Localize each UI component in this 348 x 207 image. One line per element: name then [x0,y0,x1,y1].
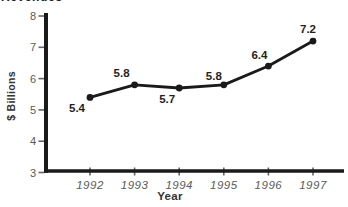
y-tick-label: 4 [30,135,36,147]
data-point [176,85,183,92]
data-point-label: 5.7 [159,93,175,105]
x-tick-label: 1992 [76,179,104,191]
data-point [310,38,317,45]
x-tick-label: 1995 [210,179,238,191]
data-point [220,81,227,88]
y-axis-title: $ Billions [5,71,17,121]
y-tick-label: 7 [30,41,36,53]
data-point-label: 7.2 [300,23,316,35]
y-tick-label: 5 [30,104,36,116]
x-tick-label: 1993 [121,179,149,191]
data-point-label: 6.4 [251,49,268,61]
y-tick-label: 6 [30,73,36,85]
data-point-label: 5.4 [69,102,86,114]
data-point [131,81,138,88]
data-point [265,63,272,70]
x-axis-title: Year [110,190,230,202]
data-point-label: 5.8 [114,67,131,79]
data-point [87,94,94,101]
x-tick-label: 1997 [299,179,327,191]
y-tick-label: 8 [30,10,36,22]
y-tick-label: 3 [30,167,36,179]
chart-canvas: 3456781992199319941995199619975.45.85.75… [0,0,348,207]
line-chart-figure: Revenues 3456781992199319941995199619975… [0,0,348,207]
x-tick-label: 1994 [165,179,193,191]
data-point-label: 5.8 [206,70,223,82]
x-tick-label: 1996 [255,179,283,191]
